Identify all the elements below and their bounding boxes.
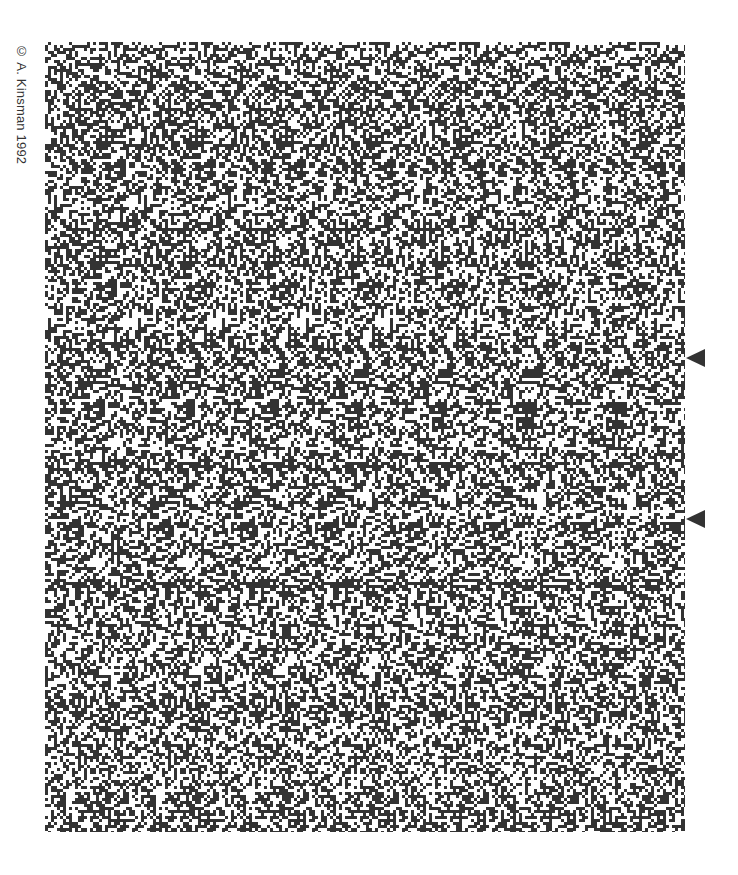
random-dot-stereogram [45,42,685,832]
alignment-marker-bottom-icon [686,510,705,528]
copyright-text: © A. Kinsman 1992 [14,44,29,164]
alignment-marker-top-icon [686,349,705,367]
